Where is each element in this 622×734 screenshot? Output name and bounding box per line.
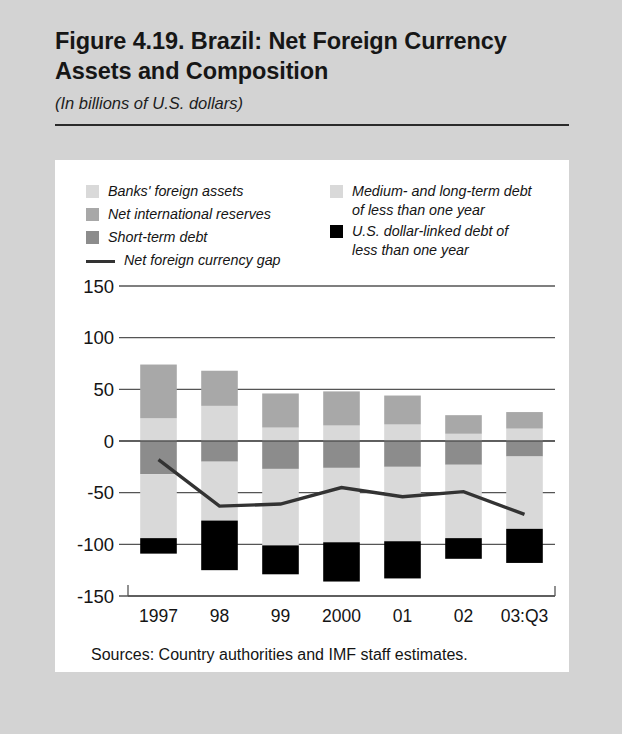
legend-column-right: Medium- and long-term debt of less than …	[330, 182, 560, 262]
bar-segment	[445, 465, 482, 538]
bar-segment	[262, 393, 299, 427]
source-note: Sources: Country authorities and IMF sta…	[91, 646, 468, 663]
x-axis-tick-label: 99	[271, 606, 290, 626]
bar-segment	[323, 441, 360, 468]
bar-segment	[506, 412, 543, 429]
y-axis-tick-label: 0	[104, 431, 114, 452]
bar-segment	[384, 467, 421, 541]
legend-item-label: Medium- and long-term debt of less than …	[352, 182, 532, 220]
bar-segment	[323, 542, 360, 581]
x-axis-tick-label: 01	[393, 606, 412, 626]
bar-segment	[384, 441, 421, 467]
bar-segment	[323, 391, 360, 425]
chart-panel: Banks' foreign assetsNet international r…	[55, 160, 569, 672]
bar-segment	[201, 462, 238, 521]
legend-color-swatch-banks_foreign_assets	[86, 185, 99, 198]
legend-item-label: Net foreign currency gap	[124, 251, 281, 270]
y-axis-tick-label: -50	[87, 482, 114, 503]
bar-segment	[506, 429, 543, 441]
legend-color-swatch-net_international_reserves	[86, 208, 99, 221]
legend-item: U.S. dollar-linked debt of less than one…	[330, 222, 560, 260]
legend-line-swatch-net_foreign_currency_gap	[86, 260, 115, 263]
chart-plot-area: 150100500-50-100-150199798992000010203:Q…	[55, 270, 569, 672]
figure-header: Figure 4.19. Brazil: Net Foreign Currenc…	[55, 26, 569, 126]
x-axis-tick-label: 98	[210, 606, 229, 626]
legend-item-label: Short-term debt	[108, 228, 207, 247]
figure-page: Figure 4.19. Brazil: Net Foreign Currenc…	[0, 0, 622, 734]
bar-segment	[140, 474, 177, 538]
bar-segment	[384, 396, 421, 425]
bar-segment	[323, 468, 360, 542]
bar-segment	[445, 441, 482, 465]
y-axis-tick-label: -150	[77, 586, 114, 607]
legend-item: Net international reserves	[86, 205, 321, 226]
legend-item: Medium- and long-term debt of less than …	[330, 182, 560, 220]
bar-segment	[384, 541, 421, 578]
bar-segment	[262, 469, 299, 545]
title-divider	[55, 124, 569, 126]
figure-subtitle: (In billions of U.S. dollars)	[55, 93, 569, 113]
bar-segment	[201, 521, 238, 571]
bar-segment	[140, 365, 177, 419]
bar-segment	[445, 434, 482, 441]
bar-segment	[506, 529, 543, 563]
legend-item: Net foreign currency gap	[86, 251, 321, 272]
bar-segment	[140, 418, 177, 441]
chart-svg: 150100500-50-100-150199798992000010203:Q…	[55, 270, 569, 672]
bar-segment	[201, 406, 238, 441]
bar-segment	[262, 441, 299, 469]
legend-item: Banks' foreign assets	[86, 182, 321, 203]
legend-column-left: Banks' foreign assetsNet international r…	[86, 182, 321, 274]
x-axis-tick-label: 1997	[139, 606, 178, 626]
x-axis-tick-label: 03:Q3	[501, 606, 549, 626]
legend-color-swatch-short_term_debt	[86, 231, 99, 244]
bar-segment	[262, 545, 299, 574]
page-title: Figure 4.19. Brazil: Net Foreign Currenc…	[55, 26, 569, 86]
legend-item-label: Banks' foreign assets	[108, 182, 243, 201]
y-axis-tick-label: 150	[83, 276, 114, 297]
legend-item: Short-term debt	[86, 228, 321, 249]
x-axis-tick-label: 02	[454, 606, 473, 626]
y-axis-tick-label: 50	[93, 379, 114, 400]
bar-segment	[262, 428, 299, 441]
bar-segment	[506, 457, 543, 529]
bar-segment	[506, 441, 543, 457]
chart-legend: Banks' foreign assetsNet international r…	[55, 160, 569, 270]
y-axis-tick-label: -100	[77, 534, 114, 555]
bar-segment	[384, 424, 421, 441]
y-axis-tick-label: 100	[83, 327, 114, 348]
x-axis-tick-label: 2000	[322, 606, 361, 626]
bar-segment	[140, 538, 177, 554]
legend-color-swatch-usd_linked_debt	[330, 225, 343, 238]
legend-item-label: U.S. dollar-linked debt of less than one…	[352, 222, 508, 260]
bar-segment	[323, 426, 360, 442]
legend-color-swatch-medium_long_term_debt	[330, 185, 343, 198]
bar-segment	[201, 441, 238, 462]
bar-segment	[201, 371, 238, 406]
bar-segment	[445, 415, 482, 434]
bar-segment	[445, 538, 482, 559]
legend-item-label: Net international reserves	[108, 205, 271, 224]
